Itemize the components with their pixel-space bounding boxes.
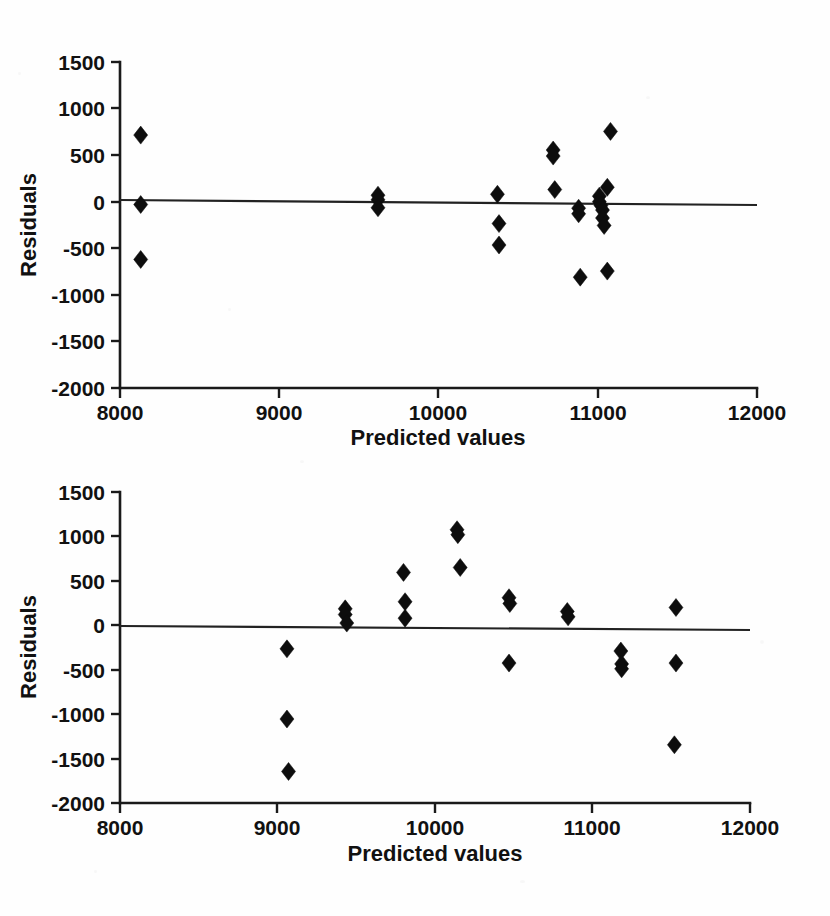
bottom-y-tick-label-4: -500 xyxy=(63,659,105,682)
top-y-axis-title: Residuals xyxy=(16,173,41,277)
residual-plot-bottom: 1500 1000 500 0 -500 -1000 -1500 -2000 8… xyxy=(0,450,830,916)
top-x-tick-label-1: 9000 xyxy=(256,401,303,424)
data-point-marker xyxy=(669,599,683,617)
bottom-y-ticks xyxy=(111,492,120,803)
bottom-x-axis-title: Predicted values xyxy=(348,841,523,866)
data-point-marker xyxy=(453,559,467,577)
bottom-x-tick-label-0: 8000 xyxy=(97,816,144,839)
top-y-tick-label-3: 0 xyxy=(93,191,105,214)
top-x-tick-label-4: 12000 xyxy=(728,401,786,424)
data-point-marker xyxy=(548,181,562,199)
bottom-y-tick-label-2: 500 xyxy=(70,570,105,593)
bottom-y-tick-label-5: -1000 xyxy=(51,703,105,726)
data-point-marker xyxy=(492,236,506,254)
top-x-ticks xyxy=(120,388,757,398)
top-x-tick-label-2: 10000 xyxy=(409,401,467,424)
bottom-y-tick-label-7: -2000 xyxy=(51,792,105,815)
top-x-tick-label-0: 8000 xyxy=(97,401,144,424)
top-zero-reference-line xyxy=(120,200,757,205)
bottom-x-tick-label-1: 9000 xyxy=(254,816,301,839)
figure-page: 1500 1000 500 0 -500 -1000 -1500 -2000 8… xyxy=(0,0,830,916)
bottom-plot-svg: 1500 1000 500 0 -500 -1000 -1500 -2000 8… xyxy=(0,450,830,916)
data-point-marker xyxy=(282,762,296,780)
data-point-marker xyxy=(502,654,516,672)
data-point-marker xyxy=(492,215,506,233)
data-point-marker xyxy=(397,563,411,581)
data-point-marker xyxy=(667,736,681,754)
bottom-x-tick-label-4: 12000 xyxy=(721,816,779,839)
top-y-ticks xyxy=(111,62,120,388)
bottom-y-tick-label-1: 1000 xyxy=(58,525,105,548)
top-y-tick-label-4: -500 xyxy=(63,237,105,260)
bottom-x-tick-label-3: 11000 xyxy=(563,816,620,839)
data-point-marker xyxy=(669,654,683,672)
top-x-tick-label-3: 11000 xyxy=(569,401,626,424)
data-point-marker xyxy=(280,640,294,658)
bottom-y-tick-label-0: 1500 xyxy=(58,481,105,504)
bottom-x-tick-label-2: 10000 xyxy=(406,816,464,839)
data-point-marker xyxy=(600,262,614,280)
top-y-tick-label-6: -1500 xyxy=(51,330,105,353)
bottom-y-tick-label-3: 0 xyxy=(93,614,105,637)
data-point-marker xyxy=(398,593,412,611)
data-point-marker xyxy=(573,268,587,286)
data-point-marker xyxy=(134,196,148,214)
bottom-y-tick-label-6: -1500 xyxy=(51,748,105,771)
data-point-marker xyxy=(134,126,148,144)
data-point-marker xyxy=(134,250,148,268)
bottom-y-axis-title: Residuals xyxy=(16,595,41,699)
data-point-marker xyxy=(280,710,294,728)
top-plot-svg: 1500 1000 500 0 -500 -1000 -1500 -2000 8… xyxy=(0,0,830,460)
data-point-marker xyxy=(398,609,412,627)
data-point-marker xyxy=(490,185,504,203)
top-x-axis-title: Predicted values xyxy=(351,425,526,450)
residual-plot-top: 1500 1000 500 0 -500 -1000 -1500 -2000 8… xyxy=(0,0,830,460)
top-y-tick-label-7: -2000 xyxy=(51,377,105,400)
bottom-x-ticks xyxy=(120,803,750,813)
top-y-tick-label-1: 1000 xyxy=(58,97,105,120)
data-point-marker xyxy=(603,122,617,140)
top-y-tick-label-5: -1000 xyxy=(51,284,105,307)
bottom-data-markers xyxy=(280,521,683,781)
top-y-tick-label-0: 1500 xyxy=(58,51,105,74)
top-y-tick-label-2: 500 xyxy=(70,144,105,167)
bottom-zero-reference-line xyxy=(120,626,750,630)
